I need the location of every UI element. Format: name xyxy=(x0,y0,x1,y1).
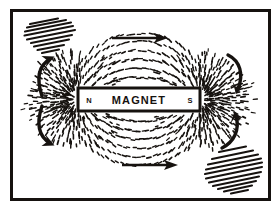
north-pole-label: N xyxy=(86,96,91,105)
magnet-body-label: MAGNET xyxy=(112,94,166,106)
magnetic-field-figure: N MAGNET S xyxy=(0,0,280,210)
south-pole-label: S xyxy=(187,96,192,105)
figure-canvas: N MAGNET S xyxy=(0,0,280,210)
magnet-bar: N MAGNET S xyxy=(78,88,200,111)
